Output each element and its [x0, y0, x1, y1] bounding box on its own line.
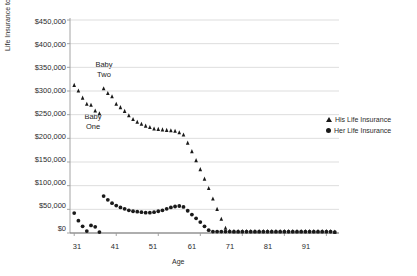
- data-point: [253, 230, 257, 234]
- data-point: [148, 125, 152, 129]
- data-point: [72, 211, 76, 215]
- data-point: [274, 230, 278, 234]
- data-point: [123, 109, 127, 113]
- data-point: [165, 128, 169, 132]
- data-point: [81, 96, 85, 100]
- data-point: [287, 230, 291, 234]
- data-point: [123, 207, 127, 211]
- chart-container: Life Insurance to Buy $450,000 $400,000 …: [0, 0, 417, 276]
- data-point: [135, 120, 139, 124]
- data-point: [119, 206, 123, 210]
- legend-item-his: His Life Insurance: [326, 114, 391, 125]
- data-point: [152, 126, 156, 130]
- data-point: [182, 205, 186, 209]
- data-point: [282, 230, 286, 234]
- legend-item-her: Her Life Insurance: [326, 125, 391, 136]
- data-point: [211, 196, 215, 200]
- data-point: [102, 194, 106, 198]
- data-point: [329, 230, 333, 234]
- data-point: [102, 86, 106, 90]
- data-point: [219, 230, 223, 234]
- data-point: [93, 225, 97, 229]
- data-point: [110, 201, 114, 205]
- data-point: [308, 230, 312, 234]
- data-point: [186, 141, 190, 145]
- data-point: [299, 230, 303, 234]
- triangle-marker-icon: [326, 117, 332, 122]
- data-point: [127, 208, 131, 212]
- data-point: [173, 129, 177, 133]
- data-point: [320, 230, 324, 234]
- data-point: [165, 207, 169, 211]
- data-point: [303, 230, 307, 234]
- data-point: [114, 102, 118, 106]
- data-point: [106, 198, 110, 202]
- data-point: [72, 83, 76, 87]
- data-point: [261, 230, 265, 234]
- series-his: [72, 83, 336, 234]
- data-point: [270, 230, 274, 234]
- data-point: [194, 158, 198, 162]
- data-point: [198, 220, 202, 224]
- data-point: [140, 122, 144, 126]
- data-point: [156, 209, 160, 213]
- plot-area: [0, 0, 417, 276]
- data-point: [182, 133, 186, 137]
- data-point: [186, 209, 190, 213]
- data-point: [207, 186, 211, 190]
- data-point: [228, 230, 232, 234]
- data-point: [169, 128, 173, 132]
- data-point: [211, 230, 215, 234]
- data-point: [77, 219, 81, 223]
- data-point: [89, 224, 93, 228]
- data-point: [203, 177, 207, 181]
- data-point: [224, 226, 228, 230]
- data-point: [232, 230, 236, 234]
- data-point: [236, 230, 240, 234]
- data-point: [177, 130, 181, 134]
- data-point: [207, 228, 211, 232]
- data-point: [127, 113, 131, 117]
- data-point: [198, 167, 202, 171]
- data-point: [148, 211, 152, 215]
- data-point: [114, 204, 118, 208]
- chart-legend: His Life Insurance Her Life Insurance: [326, 114, 391, 136]
- data-point: [278, 230, 282, 234]
- data-point: [224, 230, 228, 234]
- data-point: [194, 216, 198, 220]
- data-point: [98, 230, 102, 234]
- data-point: [98, 111, 102, 115]
- circle-marker-icon: [326, 128, 331, 133]
- data-point: [215, 207, 219, 211]
- data-point: [203, 224, 207, 228]
- data-point: [324, 230, 328, 234]
- data-point: [156, 127, 160, 131]
- data-point: [190, 149, 194, 153]
- data-point: [85, 229, 89, 233]
- data-point: [333, 230, 337, 234]
- data-point: [161, 127, 165, 131]
- data-point: [249, 230, 253, 234]
- data-point: [152, 210, 156, 214]
- data-point: [144, 124, 148, 128]
- data-point: [190, 213, 194, 217]
- data-point: [131, 117, 135, 121]
- data-point: [135, 210, 139, 214]
- data-point: [77, 89, 81, 93]
- data-point: [257, 230, 261, 234]
- data-point: [140, 210, 144, 214]
- data-point: [110, 94, 114, 98]
- data-point: [106, 91, 110, 95]
- data-point: [173, 205, 177, 209]
- data-point: [144, 211, 148, 215]
- data-point: [93, 108, 97, 112]
- data-point: [245, 230, 249, 234]
- data-point: [295, 230, 299, 234]
- data-point: [312, 230, 316, 234]
- data-point: [220, 217, 224, 221]
- data-point: [169, 206, 173, 210]
- data-point: [215, 230, 219, 234]
- data-point: [240, 230, 244, 234]
- legend-label: Her Life Insurance: [334, 125, 391, 136]
- series-her: [72, 194, 336, 234]
